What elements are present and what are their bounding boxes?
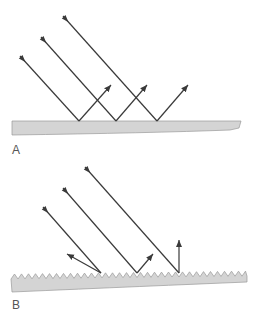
- incident-ray: [85, 167, 179, 273]
- incident-ray: [63, 16, 157, 121]
- panel-b: [11, 166, 247, 292]
- panel-b-label: B: [12, 298, 20, 312]
- arrowhead-icon: [62, 15, 69, 22]
- arrowhead-icon: [84, 166, 91, 173]
- arrowhead-icon: [40, 36, 47, 43]
- incident-ray: [63, 188, 137, 273]
- incident-ray: [41, 37, 116, 121]
- reflection-diagram: [0, 0, 259, 320]
- incident-ray: [20, 56, 79, 121]
- rays-a: [19, 15, 188, 121]
- incident-ray: [43, 207, 101, 273]
- reflected-ray: [157, 85, 188, 121]
- reflected-ray: [79, 85, 111, 121]
- rough-surface: [11, 271, 247, 292]
- arrowhead-icon: [42, 206, 48, 213]
- panel-a: [12, 15, 241, 135]
- panel-a-label: A: [12, 143, 20, 157]
- arrowhead-icon: [19, 55, 26, 62]
- reflected-ray: [116, 85, 147, 121]
- smooth-surface: [12, 121, 241, 135]
- arrowhead-icon: [62, 187, 68, 194]
- reflected-ray: [137, 254, 153, 273]
- reflected-ray: [67, 254, 101, 273]
- rays-b: [42, 166, 179, 273]
